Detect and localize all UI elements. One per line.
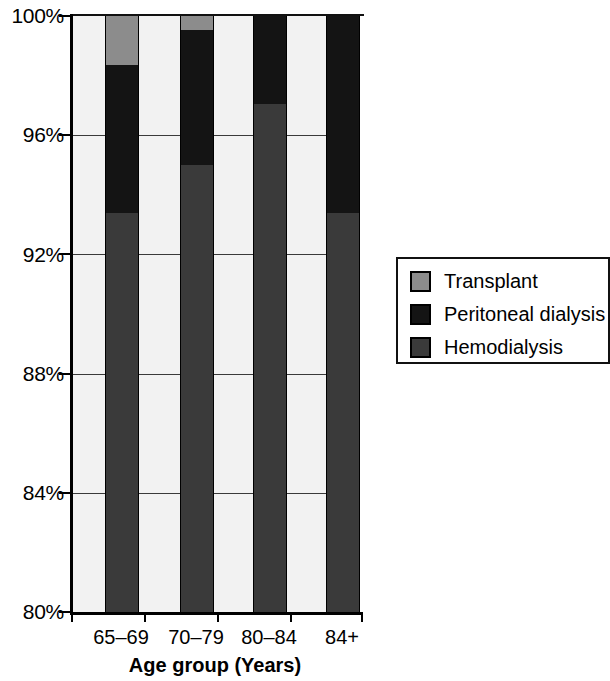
legend-label-hemodialysis: Hemodialysis — [444, 336, 563, 358]
x-tick-label-84-plus: 84+ — [287, 626, 397, 648]
segment-hemodialysis-65-69 — [106, 213, 138, 613]
x-tick-mark-0 — [71, 613, 73, 622]
segment-transplant-65-69 — [106, 16, 138, 65]
x-tick-mark-4 — [361, 613, 363, 622]
legend-label-transplant: Transplant — [444, 270, 538, 292]
segment-hemodialysis-70-79 — [181, 165, 213, 613]
legend-item-peritoneal-dialysis[interactable]: Peritoneal dialysis — [410, 300, 605, 328]
y-tick-label-84: 84% — [0, 482, 64, 503]
legend-swatch-hemodialysis-icon — [410, 337, 431, 358]
bar-80-84[interactable] — [253, 16, 287, 613]
legend-item-transplant[interactable]: Transplant — [410, 267, 538, 295]
bar-84-plus[interactable] — [326, 16, 360, 613]
bar-70-79[interactable] — [180, 16, 214, 613]
legend-swatch-peritoneal-dialysis-icon — [410, 304, 431, 325]
y-tick-label-88: 88% — [0, 363, 64, 384]
x-tick-mark-1 — [144, 613, 146, 622]
segment-peritoneal-80-84 — [254, 16, 286, 104]
segment-peritoneal-84-plus — [327, 16, 359, 213]
segment-hemodialysis-80-84 — [254, 104, 286, 613]
segment-peritoneal-65-69 — [106, 65, 138, 213]
chart-legend: Transplant Peritoneal dialysis Hemodialy… — [396, 257, 610, 364]
segment-transplant-70-79 — [181, 16, 213, 30]
segment-hemodialysis-84-plus — [327, 213, 359, 613]
y-tick-label-100: 100% — [0, 5, 64, 26]
x-tick-mark-2 — [217, 613, 219, 622]
x-tick-mark-3 — [290, 613, 292, 622]
legend-item-hemodialysis[interactable]: Hemodialysis — [410, 333, 563, 361]
y-tick-label-80: 80% — [0, 601, 64, 622]
y-tick-label-96: 96% — [0, 124, 64, 145]
bar-65-69[interactable] — [105, 16, 139, 613]
legend-swatch-transplant-icon — [410, 271, 431, 292]
legend-label-peritoneal-dialysis: Peritoneal dialysis — [444, 303, 605, 325]
y-tick-label-92: 92% — [0, 244, 64, 265]
y-axis-line — [70, 14, 73, 615]
x-axis-title: Age group (Years) — [60, 654, 370, 676]
segment-peritoneal-70-79 — [181, 30, 213, 165]
